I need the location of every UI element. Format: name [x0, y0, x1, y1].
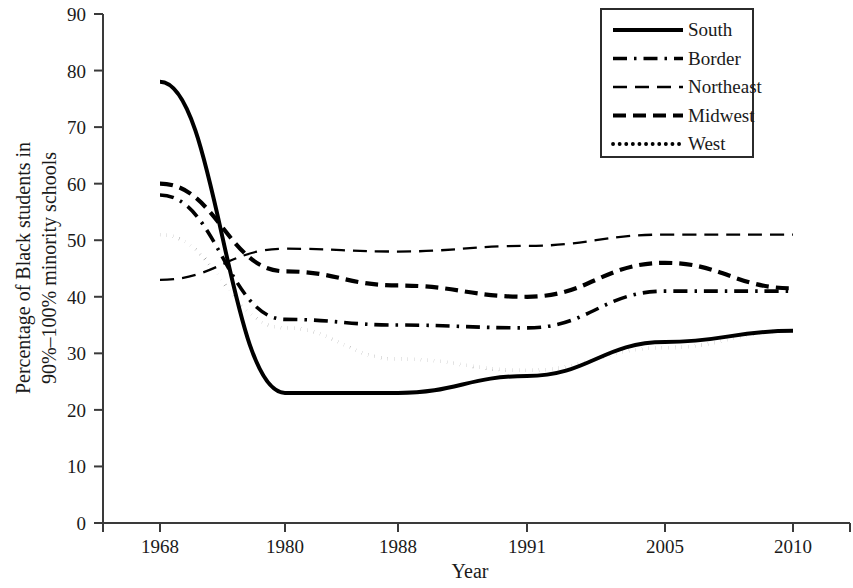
legend-label-south: South — [688, 19, 733, 40]
series-line-west — [160, 235, 793, 371]
line-chart: 0102030405060708090 19681980198819912005… — [0, 0, 853, 588]
x-tick-label: 1968 — [141, 536, 179, 557]
y-tick-label: 50 — [67, 230, 86, 251]
y-tick-label: 80 — [67, 61, 86, 82]
y-axis-title-line-1: Percentage of Black students in — [12, 142, 35, 394]
y-tick-label: 90 — [67, 4, 86, 25]
x-tick-label: 2005 — [646, 536, 684, 557]
x-tick-label: 1980 — [266, 536, 304, 557]
x-tick-label: 1988 — [379, 536, 417, 557]
y-axis-title-line-2: 90%–100% minority schools — [38, 152, 61, 384]
x-tick-label: 2010 — [774, 536, 812, 557]
y-tick-labels: 0102030405060708090 — [67, 4, 86, 534]
legend-label-border: Border — [688, 48, 741, 69]
legend-label-northeast: Northeast — [688, 76, 763, 97]
x-tick-marks — [103, 523, 850, 532]
y-tick-label: 30 — [67, 343, 86, 364]
y-tick-label: 70 — [67, 117, 86, 138]
y-tick-marks — [94, 14, 103, 523]
legend-label-west: West — [688, 133, 726, 154]
y-tick-label: 0 — [77, 513, 87, 534]
y-tick-label: 10 — [67, 456, 86, 477]
x-axis-title: Year — [452, 560, 489, 582]
y-tick-label: 20 — [67, 400, 86, 421]
y-tick-label: 60 — [67, 174, 86, 195]
legend-label-midwest: Midwest — [688, 105, 755, 126]
x-tick-labels: 196819801988199120052010 — [141, 536, 812, 557]
x-tick-label: 1991 — [508, 536, 546, 557]
series-line-northeast — [160, 235, 793, 280]
series-line-midwest — [160, 184, 793, 297]
legend: SouthBorderNortheastMidwestWest — [601, 9, 763, 157]
chart-figure: 0102030405060708090 19681980198819912005… — [0, 0, 853, 588]
y-tick-label: 40 — [67, 287, 86, 308]
